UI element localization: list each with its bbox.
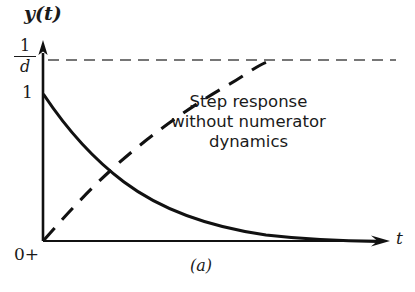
y-tick-one-over-d-denominator: d — [14, 58, 36, 75]
annotation-line-1: Step response — [156, 92, 341, 112]
annotation-line-3: dynamics — [156, 132, 341, 152]
annotation-step-response-without-numerator-dynamics: Step response without numerator dynamics — [156, 92, 341, 152]
y-tick-one-over-d-numerator: 1 — [14, 38, 36, 55]
y-axis-label: y(t) — [24, 4, 62, 23]
y-axis-arrowhead-icon — [38, 40, 47, 55]
step-response-figure: y(t) t 1 d 1 0+ Step response without nu… — [0, 0, 415, 292]
figure-caption: (a) — [190, 258, 212, 274]
y-tick-label-one-over-d: 1 d — [14, 38, 36, 75]
x-axis-label: t — [396, 230, 403, 247]
annotation-line-2: without numerator — [156, 112, 341, 132]
origin-label: 0+ — [14, 246, 39, 263]
y-tick-label-one: 1 — [22, 84, 33, 101]
